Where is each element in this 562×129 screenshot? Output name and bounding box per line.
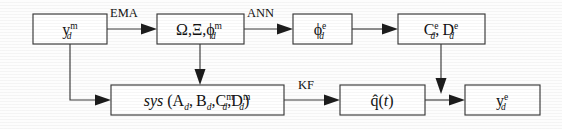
estimated-mode-shape-node: ϕed: [293, 14, 352, 44]
modal-parameters-node: Ω,Ξ,ϕmd: [157, 14, 244, 44]
estimated-output-matrices-node: Ced, Ded: [398, 14, 485, 44]
state-space-system-node: sys (Ad, Bd,Cmd,Dmd): [111, 85, 284, 115]
edge-label-ema: EMA: [110, 6, 138, 20]
edge-ann: [244, 24, 293, 35]
edge-ema: [107, 24, 157, 35]
edge-modal-to-system: [195, 44, 206, 85]
edge-state-to-output: [425, 95, 465, 106]
edge-matrices-to-output: [436, 44, 447, 94]
block-diagram-canvas: ymd Ω,Ξ,ϕmd ϕed Ced, Ded sys (Ad, Bd,Cmd…: [0, 0, 562, 129]
edge-phi-to-matrices: [352, 24, 398, 35]
edge-label-kf: KF: [298, 78, 314, 92]
estimated-state-node: q̂(t): [340, 85, 425, 115]
estimated-state-label: q̂(t): [370, 92, 393, 110]
edge-measured-to-system: [70, 44, 111, 106]
measured-output-node: ymd: [33, 14, 107, 44]
edge-kalman-filter: [284, 95, 340, 106]
edge-label-ann: ANN: [247, 6, 274, 20]
estimated-output-node: yed: [465, 85, 540, 115]
diagram-svg: ymd Ω,Ξ,ϕmd ϕed Ced, Ded sys (Ad, Bd,Cmd…: [0, 0, 562, 129]
